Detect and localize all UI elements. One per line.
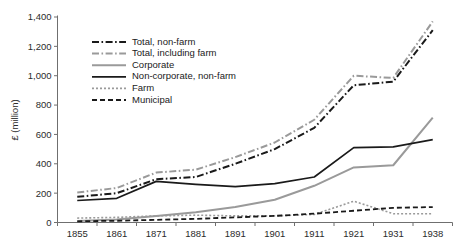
- y-axis-title: £ (million): [9, 99, 20, 140]
- x-axis-tick-label: 1871: [146, 228, 167, 239]
- chart-series-group: [77, 21, 433, 221]
- series-line: [77, 30, 433, 197]
- legend-label: Farm: [132, 82, 154, 93]
- x-axis-tick-label: 1861: [106, 228, 127, 239]
- y-axis-tick-label: 0: [46, 217, 51, 228]
- legend-label: Corporate: [132, 59, 174, 70]
- x-axis-tick-label: 1891: [225, 228, 246, 239]
- x-axis-tick-label: 1921: [343, 228, 364, 239]
- x-axis-ticks: [58, 223, 453, 227]
- legend-label: Total, including farm: [132, 47, 217, 58]
- y-axis-tick-label: 600: [36, 129, 52, 140]
- y-axis-tick-label: 200: [36, 188, 52, 199]
- x-axis-tick-label: 1855: [67, 228, 88, 239]
- legend-label: Non-corporate, non-farm: [132, 70, 236, 81]
- y-axis-tick-labels: 02004006008001,0001,2001,400: [28, 11, 52, 228]
- x-axis-tick-label: 1911: [304, 228, 324, 239]
- line-chart: 02004006008001,0001,2001,400 18551861187…: [0, 0, 459, 249]
- y-axis-tick-label: 1,200: [28, 41, 52, 52]
- legend-label: Municipal: [132, 94, 172, 105]
- chart-legend: Total, non-farmTotal, including farmCorp…: [92, 36, 236, 105]
- y-axis-tick-label: 400: [36, 158, 52, 169]
- series-line: [77, 140, 433, 201]
- x-axis-tick-label: 1901: [264, 228, 285, 239]
- y-axis-tick-label: 1,400: [28, 11, 52, 22]
- chart-axes: [54, 16, 453, 227]
- y-axis-ticks: [54, 17, 58, 223]
- x-axis-tick-label: 1931: [383, 228, 404, 239]
- y-axis-tick-label: 800: [36, 99, 52, 110]
- legend-label: Total, non-farm: [132, 36, 195, 47]
- x-axis-tick-labels: 1855186118711881189119011911192119311938: [67, 228, 444, 239]
- x-axis-tick-label: 1881: [185, 228, 206, 239]
- x-axis-tick-label: 1938: [422, 228, 443, 239]
- y-axis-tick-label: 1,000: [28, 70, 52, 81]
- series-line: [77, 118, 433, 221]
- chart-container: 02004006008001,0001,2001,400 18551861187…: [0, 0, 459, 249]
